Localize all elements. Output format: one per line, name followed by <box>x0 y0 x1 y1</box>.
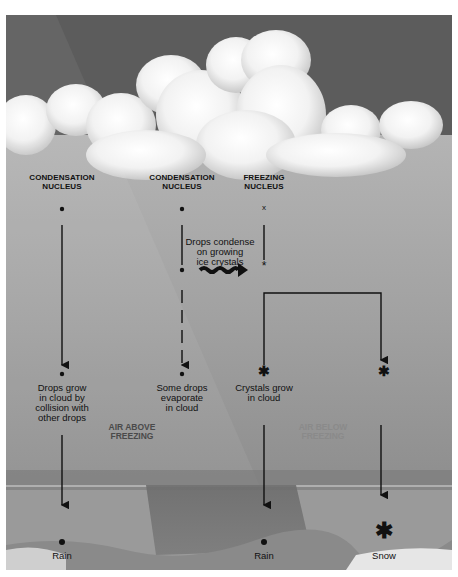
col3-header: FREEZINGNUCLEUS <box>243 173 284 191</box>
wavy-transfer-arrow <box>200 268 238 272</box>
ice-crystal-icon: * <box>262 261 267 271</box>
zone-above-freezing: AIR ABOVEFREEZING <box>109 423 156 441</box>
col3-mid-label: Crystals growin cloud <box>235 383 293 403</box>
snowflake-icon: ✱ <box>375 520 393 542</box>
col3-end-label: Rain <box>254 551 274 561</box>
diagram-arrows <box>6 15 452 570</box>
diagram-canvas: CONDENSATIONNUCLEUS CONDENSATIONNUCLEUS … <box>6 15 452 570</box>
col2-mid-label: Some dropsevaporatein cloud <box>156 383 207 413</box>
col4-end-label: Snow <box>372 551 396 561</box>
ice-crystal-icon: ✱ <box>258 366 270 376</box>
zone-below-freezing: AIR BELOWFREEZING <box>299 423 348 441</box>
col2-header: CONDENSATIONNUCLEUS <box>149 173 215 191</box>
col1-header: CONDENSATIONNUCLEUS <box>29 173 95 191</box>
ice-crystal-icon: ✱ <box>378 366 390 376</box>
transfer-label: Drops condenseon growingice crystals <box>185 237 254 267</box>
col1-end-label: Rain <box>52 551 72 561</box>
col1-mid-label: Drops growin cloud bycollision withother… <box>35 383 88 423</box>
freezing-nucleus-x-icon: x <box>262 203 266 213</box>
